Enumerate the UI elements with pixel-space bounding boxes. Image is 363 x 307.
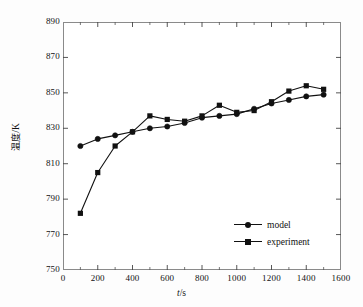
data-point [321,87,326,92]
y-axis-tick-labels: 750770790810830850870890 [22,0,60,307]
series-model [78,92,326,149]
y-tick-label: 830 [26,123,60,132]
legend-item-experiment[interactable]: experiment [234,233,340,250]
data-point [95,136,100,141]
legend-item-model[interactable]: model [234,216,340,233]
x-axis-title: t/s [0,288,363,298]
data-point [113,143,118,148]
data-point [130,129,135,134]
data-point [78,211,83,216]
chart-legend: modelexperiment [234,216,340,250]
series-line [80,86,323,214]
y-axis-title: 温度/K [11,107,21,167]
legend-marker-circle-icon [234,219,262,230]
data-point [78,143,83,148]
y-tick-label: 810 [26,159,60,168]
legend-label: model [262,220,291,230]
y-tick-label: 770 [26,230,60,239]
data-point [217,103,222,108]
data-point [304,94,309,99]
y-axis-title-unit: /K [11,123,21,133]
y-tick-label: 870 [26,52,60,61]
data-point [113,133,118,138]
data-point [269,99,274,104]
data-point [147,126,152,131]
x-axis-title-unit: /s [180,288,186,298]
data-point [199,113,204,118]
y-tick-label: 790 [26,194,60,203]
x-tick-label: 1600 [321,274,361,283]
legend-marker-square-icon [234,236,262,247]
data-point [304,83,309,88]
data-point [165,117,170,122]
data-point [182,119,187,124]
y-tick-label: 890 [26,17,60,26]
data-point [234,110,239,115]
data-point [217,113,222,118]
data-point [286,88,291,93]
data-point [321,92,326,97]
y-tick-label: 850 [26,88,60,97]
x-axis-tick-labels: 02004006008001000120014001600 [0,274,363,288]
data-point [286,97,291,102]
series-experiment [78,83,326,216]
data-point [252,108,257,113]
chart-figure: 750770790810830850870890 020040060080010… [0,0,363,307]
data-point [147,113,152,118]
y-tick-label: 750 [26,265,60,274]
legend-label: experiment [262,237,310,247]
y-axis-title-text: 温度 [11,133,21,151]
data-point [165,124,170,129]
data-point [95,170,100,175]
